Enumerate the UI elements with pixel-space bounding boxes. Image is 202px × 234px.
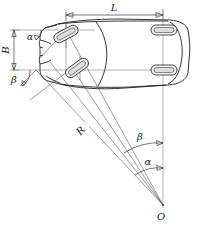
turn-center-label: O (157, 211, 165, 222)
alpha-label-front: α (27, 32, 33, 42)
beta-label-center: β (136, 131, 143, 142)
beta-label-front: β (10, 74, 17, 85)
wheelbase-label: L (110, 2, 118, 13)
track-width-label: B (0, 46, 11, 54)
steering-geometry-figure: L B α β β (0, 0, 202, 234)
diagram-canvas: L B α β β (0, 0, 202, 234)
rear-left-wheel-tread (154, 28, 174, 33)
alpha-angle-at-center: α (135, 156, 163, 175)
turn-center-point-group: O (157, 204, 165, 222)
rear-left-wheel (151, 25, 177, 35)
outer-wheel-axis-extension (20, 70, 36, 86)
beta-angle-front: β (10, 70, 30, 86)
turn-center-dot (162, 204, 164, 206)
alpha-label-center: α (145, 156, 152, 167)
rear-right-wheel (151, 65, 177, 75)
alpha-angle-front: α (27, 30, 41, 42)
turning-radius-label-group: R (73, 122, 89, 138)
track-width-dimension: B (0, 30, 20, 70)
wheelbase-dimension: L (66, 2, 163, 20)
beta-angle-at-center: β (124, 131, 163, 153)
rear-right-wheel-tread (154, 68, 174, 73)
